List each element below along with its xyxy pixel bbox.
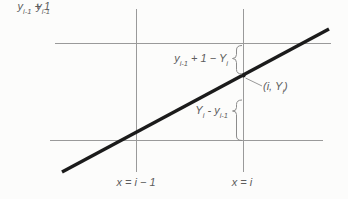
label-y-bottom-base: y <box>36 0 42 12</box>
point-marker <box>241 73 245 77</box>
label-lower-gap-t1: Y <box>195 104 202 116</box>
label-x-i-minus-1: x = i − 1 <box>110 176 162 189</box>
line-rasterization-diagram: yi-1 + 1 yi-1 yi-1 + 1 − Yi Yi - yi-1 (i… <box>0 0 348 199</box>
label-point-t3: ) <box>284 80 288 92</box>
label-upper-gap-t2: + 1 − <box>188 52 219 64</box>
label-lower-gap-t2: - <box>204 104 214 116</box>
label-lower-gap: Yi - yi-1 <box>170 104 228 117</box>
label-y-bottom: yi-1 <box>0 0 50 13</box>
label-point: (i, Yi) <box>263 80 288 93</box>
label-upper-gap-s3: i <box>226 59 228 68</box>
label-y-bottom-sub: i-1 <box>42 7 50 16</box>
label-point-t1: (i, <box>263 80 275 92</box>
diagram-geometry <box>0 0 348 199</box>
label-point-s2: i <box>282 87 284 96</box>
point-leader-line <box>246 78 263 86</box>
label-lower-gap-t3: y <box>214 104 220 116</box>
label-upper-gap-t1: y <box>174 52 180 64</box>
brace-lower-gap <box>233 100 243 141</box>
label-lower-gap-s3: i-1 <box>220 111 228 120</box>
label-upper-gap: yi-1 + 1 − Yi <box>160 52 228 65</box>
plotted-line <box>62 29 329 172</box>
brace-upper-gap <box>233 46 243 75</box>
label-upper-gap-s1: i-1 <box>180 59 188 68</box>
label-x-i: x = i <box>221 176 263 189</box>
